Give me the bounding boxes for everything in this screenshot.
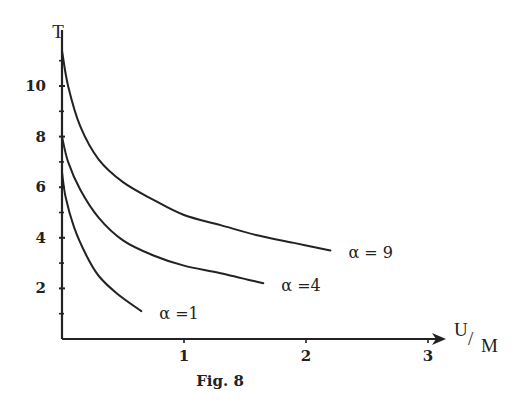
svg-text:M: M [481,335,498,356]
curve-labels: α = 9α =4α =1 [159,243,393,323]
curve-3 [62,172,141,311]
curves [62,51,330,312]
svg-text:U: U [454,319,468,340]
curve-label: α = 9 [348,243,393,262]
x-ticks: 123 [179,339,433,365]
y-tick-label: 4 [36,229,46,247]
x-tick-label: 1 [179,347,189,365]
x-axis-title: U / M [454,319,498,356]
y-ticks: 246810 [25,61,65,314]
y-tick-label: 6 [36,178,46,196]
curve-2 [62,137,263,284]
y-tick-label: 2 [36,279,46,297]
y-tick-label: 10 [25,77,46,95]
y-axis-title: T [52,21,64,42]
y-tick-label: 8 [36,128,46,146]
axes: 246810 123 [25,30,446,365]
chart-figure: 246810 123 T U / M α = 9α =4α =1 Fig. 8 [0,0,530,403]
curve-label: α =4 [281,276,320,295]
x-tick-label: 3 [423,347,433,365]
figure-caption: Fig. 8 [196,372,244,390]
svg-text:/: / [468,328,474,349]
x-tick-label: 2 [301,347,311,365]
curve-label: α =1 [159,304,198,323]
